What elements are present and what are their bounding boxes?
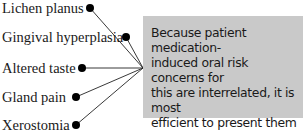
bullet-dot-icon (78, 64, 86, 72)
item-xerostomia: Xerostomia (2, 117, 70, 133)
item-altered-taste: Altered taste (2, 60, 76, 76)
bullet-dot-icon (72, 121, 80, 129)
explanation-line: induced oral risk concerns for (151, 55, 301, 85)
explanation-box: Because patient medication- induced oral… (143, 16, 303, 118)
explanation-line: this are interrelated, it is most (151, 85, 301, 115)
explanation-text: Because patient medication- induced oral… (151, 25, 301, 135)
item-gland-pain: Gland pain (2, 89, 66, 105)
item-gingival-hyperplasia: Gingival hyperplasia (2, 29, 123, 45)
bullet-dot-icon (72, 93, 80, 101)
explanation-line: efficient to present them as (151, 115, 301, 135)
bullet-dot-icon (86, 4, 94, 12)
explanation-line: Because patient medication- (151, 25, 301, 55)
item-lichen-planus: Lichen planus (2, 0, 84, 16)
